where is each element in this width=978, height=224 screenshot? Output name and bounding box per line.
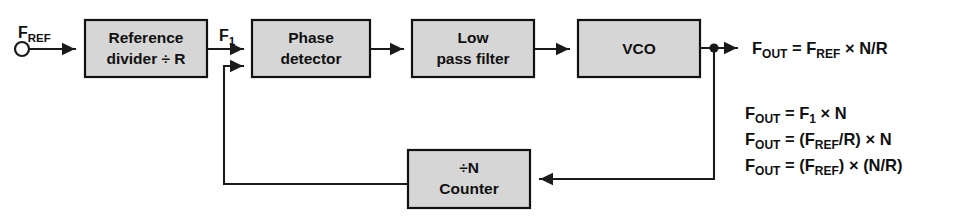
arrow-into-vco: [556, 43, 569, 55]
arrow-to-fout: [724, 42, 737, 54]
equation-fout-frefr-n-part-4: /R) × N: [839, 130, 892, 148]
equation-fout-fref-nr-part-3: REF: [815, 164, 839, 178]
f-ref-label-sub: REF: [28, 32, 51, 44]
equation-fout-fref-part-0: F: [752, 39, 762, 57]
divide-n-counter-line2: Counter: [439, 180, 498, 197]
equation-fout-fref-nr-part-1: OUT: [755, 164, 781, 178]
equation-fout-frefr-n: FOUT = (FREF/R) × N: [745, 130, 892, 152]
diagram-canvas: Referencedivider ÷ RPhasedetectorLowpass…: [0, 0, 978, 224]
phase-detector-line2: detector: [280, 50, 341, 67]
equation-fout-f1-n-part-2: = F: [780, 104, 809, 122]
f1-label-sub: 1: [229, 35, 236, 47]
reference-divider-line2: divider ÷ R: [106, 50, 185, 67]
arrow-into-divider: [62, 43, 75, 55]
equation-fout-frefr-n-part-0: F: [745, 130, 755, 148]
equation-fout-f1-n-part-0: F: [745, 104, 755, 122]
vco[interactable]: VCO: [578, 20, 700, 77]
f-ref-terminal[interactable]: [15, 42, 29, 56]
arrow-into-lpf: [390, 43, 403, 55]
low-pass-filter-line1: Low: [458, 29, 490, 46]
arrow-into-counter-right: [540, 173, 553, 185]
reference-divider-line1: Reference: [109, 29, 184, 46]
equation-fout-f1-n-part-1: OUT: [755, 112, 781, 126]
phase-detector-line1: Phase: [288, 29, 334, 46]
equation-fout-frefr-n-part-2: = (F: [780, 130, 814, 148]
arrow-into-phase-bottom: [230, 60, 243, 72]
equation-fout-fref-nr-part-4: ) × (N/R): [839, 156, 903, 174]
low-pass-filter[interactable]: Lowpass filter: [412, 20, 534, 77]
equation-fout-fref-nr: FOUT = (FREF) × (N/R): [745, 156, 903, 178]
f-ref-label-base: F: [18, 24, 28, 41]
pll-block-diagram: Referencedivider ÷ RPhasedetectorLowpass…: [0, 0, 978, 224]
equation-fout-frefr-n-part-3: REF: [815, 138, 839, 152]
wire-counter-to-phase-feedback: [224, 66, 408, 184]
equation-fout-fref-part-1: OUT: [762, 47, 788, 61]
vco-line1: VCO: [622, 40, 656, 57]
equation-fout-f1-n-part-4: × N: [816, 104, 847, 122]
vco-output-junction: [709, 43, 718, 52]
equation-fout-fref-part-4: × N/R: [840, 39, 887, 57]
equation-fout-frefr-n-part-1: OUT: [755, 138, 781, 152]
divide-n-counter-line1: ÷N: [459, 159, 479, 176]
equation-fout-fref-nr-part-2: = (F: [780, 156, 814, 174]
low-pass-filter-line2: pass filter: [436, 50, 509, 67]
equation-fout-fref-nr-part-0: F: [745, 156, 755, 174]
equation-fout-fref: FOUT = FREF × N/R: [752, 39, 888, 61]
divide-n-counter[interactable]: ÷NCounter: [408, 150, 530, 208]
equation-fout-f1-n: FOUT = F1 × N: [745, 104, 847, 126]
f1-label: F1: [219, 27, 236, 47]
equation-fout-fref-part-2: = F: [787, 39, 816, 57]
reference-divider[interactable]: Referencedivider ÷ R: [85, 20, 207, 77]
f1-label-base: F: [219, 27, 229, 44]
phase-detector[interactable]: Phasedetector: [252, 20, 370, 77]
equation-fout-fref-part-3: REF: [816, 47, 840, 61]
